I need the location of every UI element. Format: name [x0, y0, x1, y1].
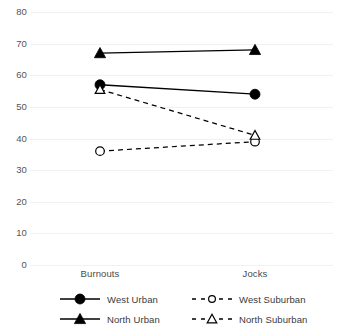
data-point-marker: [207, 314, 217, 323]
legend-entry[interactable]: North Urban: [58, 312, 160, 326]
y-tick-label: 0: [3, 260, 27, 270]
gridline: [30, 265, 333, 266]
x-tick-label: Burnouts: [81, 268, 120, 279]
y-tick-label: 20: [3, 197, 27, 207]
series-line: [100, 89, 255, 135]
legend-swatch: [58, 312, 102, 326]
data-point-marker: [250, 89, 260, 99]
legend-row: North UrbanNorth Suburban: [0, 312, 341, 332]
legend-row: West UrbanWest Suburban: [0, 292, 341, 312]
series-north-urban: [94, 44, 260, 57]
legend-label: North Suburban: [239, 314, 307, 325]
data-point-marker: [96, 147, 105, 156]
series-line: [100, 142, 255, 151]
y-tick-label: 50: [3, 102, 27, 112]
y-tick-label: 80: [3, 7, 27, 17]
y-tick-label: 60: [3, 70, 27, 80]
legend-swatch: [58, 292, 102, 306]
x-axis-tick-labels: BurnoutsJocks: [30, 268, 333, 284]
chart-legend: West UrbanWest SuburbanNorth UrbanNorth …: [0, 292, 341, 336]
legend-entry[interactable]: North Suburban: [190, 312, 307, 326]
legend-entry[interactable]: West Suburban: [190, 292, 306, 306]
x-tick-label: Jocks: [243, 268, 268, 279]
legend-swatch: [190, 292, 234, 306]
series-layer: [30, 12, 333, 265]
legend-swatch: [190, 312, 234, 326]
plot-area: [30, 12, 333, 265]
y-tick-label: 70: [3, 39, 27, 49]
legend-entry[interactable]: West Urban: [58, 292, 158, 306]
series-west-urban: [95, 80, 260, 99]
y-tick-label: 10: [3, 228, 27, 238]
y-tick-label: 40: [3, 134, 27, 144]
data-point-marker: [250, 131, 260, 140]
series-line: [100, 50, 255, 53]
legend-label: North Urban: [107, 314, 160, 325]
line-chart: 01020304050607080 BurnoutsJocks West Urb…: [0, 0, 341, 336]
data-point-marker: [75, 294, 85, 304]
y-tick-label: 30: [3, 165, 27, 175]
series-line: [100, 85, 255, 94]
legend-label: West Suburban: [239, 294, 306, 305]
data-point-marker: [209, 296, 216, 303]
legend-label: West Urban: [107, 294, 158, 305]
series-west-suburban: [96, 137, 260, 155]
